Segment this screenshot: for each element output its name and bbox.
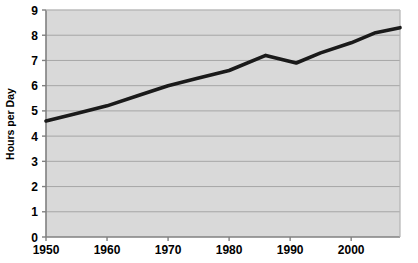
y-tick-label: 2: [31, 180, 38, 194]
y-tick-label: 9: [31, 4, 38, 18]
y-tick-label: 4: [31, 130, 38, 144]
x-tick-label: 1960: [94, 243, 121, 257]
chart-container: 0123456789 195019601970198019902000 Hour…: [0, 0, 418, 263]
y-tick-label: 6: [31, 79, 38, 93]
line-chart: 0123456789 195019601970198019902000 Hour…: [0, 0, 418, 263]
y-axis-title: Hours per Day: [4, 88, 16, 160]
y-tick-label: 1: [31, 205, 38, 219]
y-tick-label: 3: [31, 155, 38, 169]
x-tick-label: 1970: [155, 243, 182, 257]
y-tick-label: 5: [31, 104, 38, 118]
x-tick-label: 1980: [216, 243, 243, 257]
x-tick-label: 2000: [338, 243, 365, 257]
x-tick-label: 1950: [33, 243, 60, 257]
y-tick-label: 7: [31, 54, 38, 68]
y-tick-label: 8: [31, 29, 38, 43]
x-tick-label: 1990: [277, 243, 304, 257]
